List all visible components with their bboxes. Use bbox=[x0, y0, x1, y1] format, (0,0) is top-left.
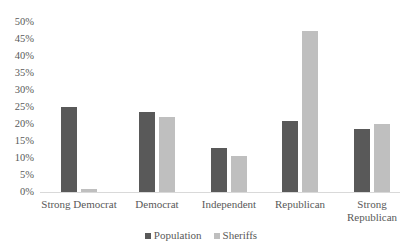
x-category-label: Democrat bbox=[117, 198, 197, 211]
y-tick-label: 0% bbox=[0, 186, 34, 198]
legend-label: Sheriffs bbox=[223, 229, 258, 241]
y-tick-label: 40% bbox=[0, 50, 34, 62]
bar-sheriffs-0 bbox=[81, 189, 97, 192]
x-category-label: Independent bbox=[189, 198, 269, 211]
legend-swatch-icon bbox=[214, 233, 220, 239]
bar-population-3 bbox=[282, 121, 298, 192]
legend: PopulationSheriffs bbox=[0, 229, 402, 241]
bar-population-2 bbox=[211, 148, 227, 192]
bar-population-4 bbox=[354, 129, 370, 192]
legend-item: Population bbox=[145, 229, 202, 241]
bar-sheriffs-1 bbox=[159, 117, 175, 192]
legend-item: Sheriffs bbox=[214, 229, 258, 241]
bar-population-1 bbox=[139, 112, 155, 192]
y-tick-label: 10% bbox=[0, 152, 34, 164]
y-tick-label: 20% bbox=[0, 118, 34, 130]
y-tick-label: 25% bbox=[0, 101, 34, 113]
x-category-label: Strong Democrat bbox=[39, 198, 119, 211]
y-tick-label: 15% bbox=[0, 135, 34, 147]
legend-swatch-icon bbox=[145, 233, 151, 239]
legend-label: Population bbox=[154, 229, 202, 241]
bar-sheriffs-2 bbox=[231, 156, 247, 192]
y-tick-label: 50% bbox=[0, 16, 34, 28]
y-tick-label: 30% bbox=[0, 84, 34, 96]
y-tick-label: 45% bbox=[0, 33, 34, 45]
bar-population-0 bbox=[61, 107, 77, 192]
bar-sheriffs-3 bbox=[302, 31, 318, 193]
y-tick-label: 35% bbox=[0, 67, 34, 79]
y-tick-label: 5% bbox=[0, 169, 34, 181]
x-category-label: StrongRepublican bbox=[332, 198, 402, 224]
bar-sheriffs-4 bbox=[374, 124, 390, 192]
x-category-label: Republican bbox=[260, 198, 340, 211]
x-axis-line bbox=[40, 192, 400, 193]
